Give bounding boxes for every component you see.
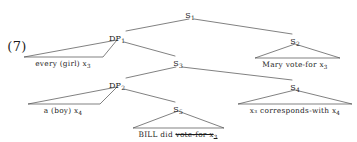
example-number: (7): [7, 40, 26, 53]
leaf-struck-subscript: 3: [214, 134, 218, 140]
node-label-dp1: DP1: [109, 35, 125, 43]
triangle-leaf-x3-corresponds-with-x4: [238, 90, 352, 104]
leaf-mary-vote-for: Mary vote-for x3: [262, 61, 327, 69]
node-subscript: 3: [179, 62, 183, 69]
leaf-subscript: 3: [87, 63, 91, 69]
leaf-bill-did: BILL did vote-for x3: [139, 131, 218, 139]
branch-s3-to-dp2: [126, 67, 176, 78]
branch-dp2-to-s5: [124, 89, 175, 102]
node-subscript: 5: [179, 108, 183, 115]
node-subscript: 1: [191, 14, 195, 21]
node-label-s5: S5: [173, 106, 183, 114]
leaf-text: Mary vote-for x3: [262, 60, 327, 69]
node-subscript: 4: [296, 86, 300, 93]
triangle-leaf-a-boy: [28, 87, 117, 104]
branch-dp1-to-s3: [124, 42, 175, 56]
node-subscript: 1: [121, 37, 125, 44]
tree-lines: [0, 0, 357, 142]
leaf-subscript: 4: [78, 110, 82, 116]
node-label-s1: S1: [185, 12, 195, 20]
leaf-subscript: 3: [324, 64, 328, 70]
leaf-subscript: 4: [336, 110, 340, 116]
branch-s1-to-dp1: [126, 19, 189, 31]
triangle-leaf-every-girl: [24, 40, 117, 57]
leaf-text: a (boy) x4: [44, 106, 82, 115]
node-subscript: 2: [121, 84, 125, 91]
node-label-s4: S4: [290, 84, 300, 92]
node-subscript: 2: [296, 40, 300, 47]
node-label-s3: S3: [173, 60, 183, 68]
node-label-s2: S2: [290, 38, 300, 46]
node-label-dp2: DP2: [109, 82, 125, 90]
leaf-text-struck: vote-for x3: [175, 130, 217, 139]
branch-s1-to-s2: [194, 19, 292, 34]
leaf-text: x₃ corresponds-with x4: [250, 106, 340, 115]
leaf-a-boy: a (boy) x4: [44, 107, 82, 115]
leaf-text: BILL did: [139, 130, 176, 139]
leaf-x3-corresponds-with-x4: x₃ corresponds-with x4: [250, 107, 340, 115]
leaf-text: every (girl) x3: [35, 59, 91, 68]
syntax-tree-figure: (7) S1DP1S2S3DP2S4S5 every (girl) x3Mary…: [0, 0, 357, 142]
leaf-every-girl: every (girl) x3: [35, 60, 91, 68]
